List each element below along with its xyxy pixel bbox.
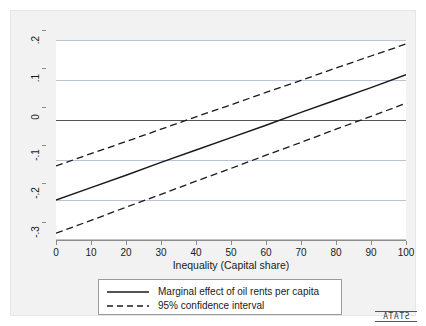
- x-tick-label-3: 30: [146, 247, 176, 258]
- x-tick-mark-9: [371, 241, 372, 245]
- x-tick-label-4: 40: [181, 247, 211, 258]
- ci-upper-line: [56, 44, 406, 166]
- x-tick-mark-7: [301, 241, 302, 245]
- x-tick-mark-10: [406, 241, 407, 245]
- y-tick-mark-4: [42, 183, 46, 184]
- x-tick-mark-2: [126, 241, 127, 245]
- legend-key-solid-line-icon: [105, 287, 151, 297]
- x-axis-title: Inequality (Capital share): [56, 259, 406, 271]
- x-tick-label-8: 80: [321, 247, 351, 258]
- legend-label-confidence-interval: 95% confidence interval: [158, 300, 264, 311]
- y-tick-label-5: -.3: [31, 219, 41, 245]
- y-tick-label-1: .1: [31, 65, 41, 91]
- y-tick-mark-2: [42, 107, 46, 108]
- legend-label-marginal-effect: Marginal effect of oil rents per capita: [158, 286, 319, 297]
- x-tick-label-1: 10: [76, 247, 106, 258]
- x-tick-mark-0: [56, 241, 57, 245]
- plot-svg: [56, 40, 406, 240]
- legend: Marginal effect of oil rents per capita …: [98, 279, 342, 315]
- x-tick-mark-3: [161, 241, 162, 245]
- x-tick-label-10: 100: [391, 247, 421, 258]
- x-tick-mark-6: [266, 241, 267, 245]
- plot-area: [56, 40, 406, 240]
- x-tick-mark-1: [91, 241, 92, 245]
- y-tick-label-0: .2: [31, 27, 41, 53]
- x-tick-mark-5: [231, 241, 232, 245]
- marginal-effect-line: [56, 75, 406, 200]
- stata-logo: STATA: [375, 311, 417, 322]
- x-tick-mark-4: [196, 241, 197, 245]
- x-tick-label-2: 20: [111, 247, 141, 258]
- x-tick-label-9: 90: [356, 247, 386, 258]
- y-tick-label-4: -.2: [31, 180, 41, 206]
- y-tick-mark-3: [42, 145, 46, 146]
- chart-screenshot: .2 .1 0 -.1 -.2 -.3: [0, 0, 426, 326]
- x-tick-label-0: 0: [41, 247, 71, 258]
- x-tick-label-6: 60: [251, 247, 281, 258]
- legend-entry-confidence-interval: 95% confidence interval: [105, 299, 335, 312]
- y-tick-mark-5: [42, 222, 46, 223]
- y-tick-label-2: 0: [31, 104, 41, 130]
- legend-entry-marginal-effect: Marginal effect of oil rents per capita: [105, 285, 335, 298]
- y-tick-mark-1: [42, 68, 46, 69]
- y-tick-mark-0: [42, 30, 46, 31]
- ci-lower-line: [56, 103, 406, 233]
- x-tick-mark-8: [336, 241, 337, 245]
- x-tick-label-5: 50: [216, 247, 246, 258]
- gridlines: [56, 41, 406, 240]
- legend-key-dashed-line-icon: [105, 301, 151, 311]
- graph-region: .2 .1 0 -.1 -.2 -.3: [10, 10, 416, 316]
- x-tick-label-7: 70: [286, 247, 316, 258]
- y-tick-label-3: -.1: [31, 142, 41, 168]
